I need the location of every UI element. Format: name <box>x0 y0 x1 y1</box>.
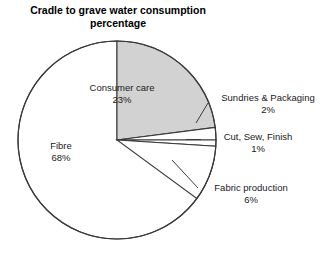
slice-label-cut-sew-finish-value: 1% <box>200 143 316 155</box>
slice-label-consumer-care: Consumer care 23% <box>76 82 168 105</box>
pie-chart-graphic <box>0 0 334 254</box>
slice-label-consumer-care-value: 23% <box>76 94 168 106</box>
slice-label-fabric-production-value: 6% <box>196 194 306 206</box>
slice-label-fibre-value: 68% <box>32 152 90 164</box>
slice-label-fibre: Fibre 68% <box>32 140 90 163</box>
slice-label-fabric-production: Fabric production 6% <box>196 182 306 205</box>
slice-label-fabric-production-name: Fabric production <box>196 182 306 194</box>
slice-label-sundries-packaging-name: Sundries & Packaging <box>206 92 330 104</box>
slice-label-consumer-care-name: Consumer care <box>76 82 168 94</box>
slice-label-sundries-packaging-value: 2% <box>206 104 330 116</box>
slice-label-fibre-name: Fibre <box>32 140 90 152</box>
slice-label-sundries-packaging: Sundries & Packaging 2% <box>206 92 330 115</box>
slice-label-cut-sew-finish: Cut, Sew, Finish 1% <box>200 131 316 154</box>
chart-canvas: Cradle to grave water consumption percen… <box>0 0 334 254</box>
slice-label-cut-sew-finish-name: Cut, Sew, Finish <box>200 131 316 143</box>
